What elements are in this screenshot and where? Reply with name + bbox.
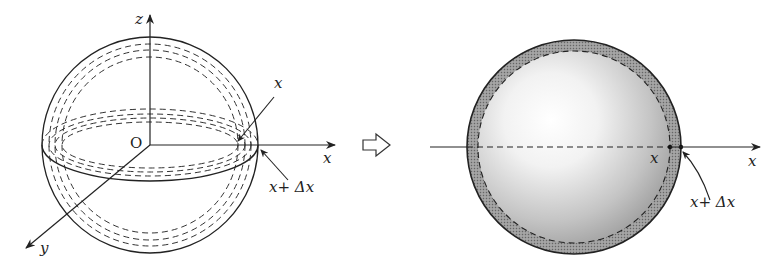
right-sphere-diagram: x x x+ Δx <box>430 40 760 254</box>
inner-radius-label: x <box>650 149 659 167</box>
z-axis-label: z <box>134 10 143 28</box>
shell-outer-label: x+ Δx <box>269 178 315 196</box>
x-oblique-label: x <box>274 74 283 92</box>
transition-arrow-icon <box>363 134 390 156</box>
x-axis-label-right: x <box>748 152 757 170</box>
origin-label: O <box>130 134 142 152</box>
shell-outer-label-right: x+ Δx <box>690 193 736 211</box>
left-sphere-diagram: z y x x O x+ Δx <box>26 10 335 257</box>
y-axis-label: y <box>39 239 49 257</box>
x-axis-label: x <box>323 149 332 167</box>
y-axis <box>26 145 150 248</box>
diagram-canvas: z y x x O x+ Δx x x x+ Δx <box>0 0 770 271</box>
x-oblique-pointer <box>238 97 274 141</box>
x-plus-dx-pointer <box>261 150 288 180</box>
